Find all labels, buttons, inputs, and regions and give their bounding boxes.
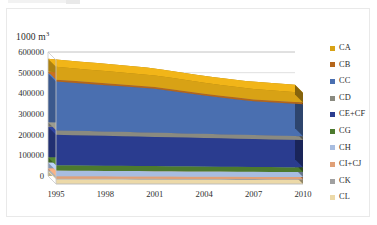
legend-swatch-icon (330, 62, 335, 67)
x-axis-ticks: 199519982001200420072010 (47, 189, 311, 199)
chart-legend: CACBCCCDCE+CFCGCHCI+CJCKCL (330, 40, 377, 206)
legend-swatch-icon (330, 162, 335, 167)
plot-area: 0100000200000300000400000500000600000 19… (18, 47, 311, 199)
legend-item-label: CL (339, 189, 350, 206)
legend-item[interactable]: CA (330, 40, 377, 57)
y-axis-tick-label: 300000 (18, 109, 44, 119)
y-axis-tick-label: 600000 (18, 47, 44, 57)
legend-swatch-icon (330, 112, 335, 117)
legend-item[interactable]: CH (330, 140, 377, 157)
x-axis-tick-label: 1995 (47, 189, 64, 199)
legend-item-label: CI+CJ (339, 156, 361, 173)
legend-item-label: CG (339, 123, 351, 140)
legend-swatch-icon (330, 96, 335, 101)
legend-item-label: CD (339, 90, 351, 107)
chart-screenshot: 1000 m3 01000002000003000004000005000006… (0, 0, 377, 225)
x-axis-tick-label: 1998 (97, 189, 114, 199)
area-series-group (48, 59, 303, 184)
legend-item[interactable]: CG (330, 123, 377, 140)
legend-item[interactable]: CB (330, 57, 377, 74)
y-axis-tick-label: 500000 (18, 68, 44, 78)
area-front-face (56, 135, 303, 168)
legend-item-label: CH (339, 140, 351, 157)
legend-swatch-icon (330, 195, 335, 200)
x-axis-tick-label: 2010 (294, 189, 311, 199)
area-front-face (56, 179, 303, 184)
y-axis-tick-label: 0 (40, 171, 44, 181)
x-axis-tick-label: 2004 (196, 189, 214, 199)
y-axis-tick-label: 200000 (18, 130, 44, 140)
y-axis-tick-label: 400000 (18, 88, 44, 98)
y-axis-tick-label: 100000 (18, 150, 44, 160)
legend-item-label: CK (339, 173, 351, 190)
legend-item[interactable]: CD (330, 90, 377, 107)
legend-item[interactable]: CL (330, 189, 377, 206)
x-axis-tick-label: 2007 (245, 189, 263, 199)
legend-swatch-icon (330, 46, 335, 51)
legend-swatch-icon (330, 179, 335, 184)
legend-swatch-icon (330, 79, 335, 84)
depth-edge-topleft (48, 52, 56, 60)
legend-item[interactable]: CK (330, 173, 377, 190)
legend-item[interactable]: CI+CJ (330, 156, 377, 173)
y-axis-ticks: 0100000200000300000400000500000600000 (18, 47, 44, 181)
legend-item-label: CB (339, 57, 350, 74)
legend-item[interactable]: CE+CF (330, 106, 377, 123)
legend-item-label: CC (339, 73, 350, 90)
legend-swatch-icon (330, 145, 335, 150)
legend-swatch-icon (330, 129, 335, 134)
legend-item-label: CA (339, 40, 351, 57)
legend-item-label: CE+CF (339, 106, 365, 123)
stacked-area-chart: 0100000200000300000400000500000600000 19… (0, 0, 377, 225)
legend-item[interactable]: CC (330, 73, 377, 90)
x-axis-tick-label: 2001 (146, 189, 163, 199)
